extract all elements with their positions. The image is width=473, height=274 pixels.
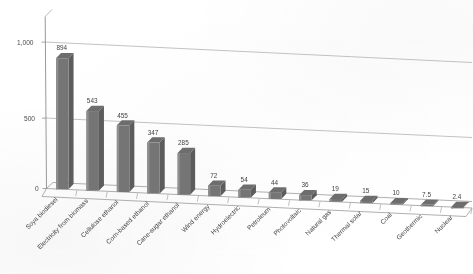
value-label: 44 [271, 179, 279, 186]
x-tick [136, 193, 137, 199]
x-tick [380, 204, 381, 210]
floor-left-depth-cap [47, 183, 54, 189]
bar-highlight [86, 111, 88, 191]
bar-highlight [238, 190, 240, 198]
bar-top-face [421, 200, 439, 205]
bar-highlight [208, 186, 210, 197]
bar-highlight [360, 201, 362, 203]
value-label: 19 [332, 185, 340, 192]
category-label: Photovoltaic [272, 206, 303, 237]
x-tick [76, 190, 77, 196]
bar-highlight [117, 125, 119, 192]
x-tick [440, 207, 441, 213]
bar-highlight [178, 153, 180, 195]
value-label: 54 [241, 176, 249, 183]
y-tick-label-1000: 1,000 [17, 39, 34, 46]
value-label: 15 [362, 187, 370, 194]
y-axis-depth-edge [45, 10, 52, 17]
x-tick [167, 195, 168, 201]
x-tick [228, 197, 229, 203]
y-axis: 1,000 500 0 [17, 39, 47, 193]
value-label: 543 [87, 97, 98, 104]
bar-chart: 1,000 500 0 8945434553472857254443619151… [0, 0, 473, 274]
value-label: 455 [117, 112, 128, 119]
chart-canvas: 1,000 500 0 8945434553472857254443619151… [0, 0, 473, 274]
category-label: Nuclear [433, 213, 454, 234]
bar-side-face [190, 148, 195, 195]
gridline-500 [46, 118, 472, 138]
x-tick [288, 200, 289, 206]
value-label: 2.4 [452, 193, 461, 200]
value-label: 10 [393, 189, 401, 196]
category-label: Wind energy [180, 202, 212, 234]
bar-side-face [69, 53, 74, 189]
gridline-1000 [46, 42, 472, 63]
y-tick-label-500: 500 [24, 115, 35, 122]
category-label: Natural gas [304, 208, 334, 238]
x-tick [410, 206, 411, 212]
floor-left-cap [42, 189, 47, 197]
bar-highlight [269, 193, 271, 199]
bar-highlight [421, 205, 423, 206]
bar-highlight [390, 203, 392, 204]
bar-highlight [299, 195, 301, 200]
bar-top-face [390, 198, 408, 203]
category-label: Hydroelectric [209, 203, 242, 236]
x-tick [106, 192, 107, 198]
bar-highlight [56, 58, 58, 189]
value-label: 894 [56, 44, 67, 51]
bar-highlight [330, 199, 332, 202]
bar-highlight [451, 207, 453, 208]
value-label: 72 [210, 172, 218, 179]
bar-side-face [160, 137, 165, 193]
x-tick [197, 196, 198, 202]
x-tick [349, 203, 350, 209]
category-label: Petroleum [246, 205, 272, 231]
bar-highlight [147, 143, 149, 194]
value-label: 347 [148, 129, 159, 136]
category-label: Thermal solar [330, 209, 364, 243]
category-label: Geothermic [395, 212, 424, 241]
bar-side-face [129, 120, 134, 192]
bar-side-face [99, 106, 104, 191]
bar-top-face [451, 202, 469, 207]
x-tick [258, 199, 259, 205]
plot-frame [42, 10, 472, 217]
bar-series [56, 53, 469, 208]
category-labels: Soya biodieselElectricity from biomassCe… [24, 195, 455, 251]
y-tick-label-0: 0 [35, 185, 39, 192]
x-tick [319, 202, 320, 208]
value-label: 285 [178, 139, 189, 146]
value-label: 36 [301, 181, 309, 188]
value-label: 7.5 [422, 191, 431, 198]
